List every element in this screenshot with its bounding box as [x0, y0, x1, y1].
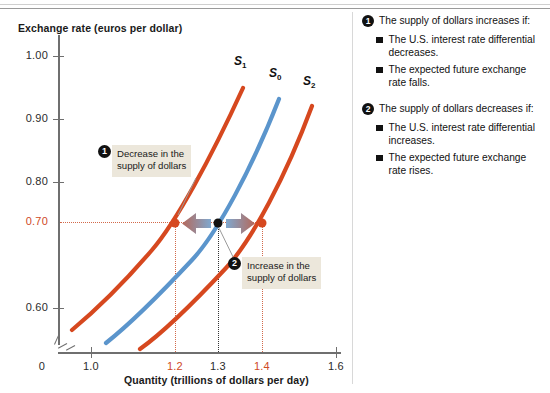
curve-label-s2: S2	[303, 74, 315, 90]
note-2-bullet-2-text: The expected future exchange rate rises.	[389, 151, 547, 177]
square-bullet-icon	[376, 125, 383, 132]
equilibrium-point-s1	[171, 219, 180, 228]
equilibrium-point-s0	[214, 219, 223, 228]
callout-1-badge: 1	[98, 145, 111, 158]
callout-1-line1: Decrease in the	[117, 148, 186, 160]
curve-label-s1: S1	[234, 54, 246, 70]
figure-supply-of-dollars: Exchange rate (euros per dollar) Quantit…	[0, 0, 550, 393]
chart-area: Exchange rate (euros per dollar) Quantit…	[0, 10, 352, 393]
arrow-decrease-supply	[182, 213, 211, 234]
callout-2-box: Increase in the supply of dollars	[242, 257, 321, 289]
notes-panel: 1 The supply of dollars increases if: Th…	[362, 14, 546, 190]
square-bullet-icon	[376, 155, 383, 162]
note-2-bullets: The U.S. interest rate differential incr…	[362, 121, 546, 177]
note-block-1: 1 The supply of dollars increases if: Th…	[362, 14, 546, 89]
callout-1-line2: supply of dollars	[117, 160, 186, 172]
note-1-bullet-1-text: The U.S. interest rate differential decr…	[389, 33, 547, 59]
panel-divider	[352, 12, 353, 384]
note-1-bullets: The U.S. interest rate differential decr…	[362, 33, 546, 89]
top-hairline-upper	[0, 4, 550, 5]
note-block-2: 2 The supply of dollars decreases if: Th…	[362, 102, 546, 177]
note-1-bullet-2-text: The expected future exchange rate falls.	[389, 63, 547, 89]
top-hairline-lower	[0, 8, 550, 9]
callout-1-leader	[178, 178, 196, 215]
curve-label-s2-sub: 2	[311, 81, 315, 90]
square-bullet-icon	[376, 67, 383, 74]
curve-label-s1-sub: 1	[242, 61, 246, 70]
note-2-heading: The supply of dollars decreases if:	[379, 102, 534, 115]
callout-2-line2: supply of dollars	[247, 272, 316, 284]
note-1-heading-row: 1 The supply of dollars increases if:	[362, 14, 546, 27]
curve-label-s2-base: S	[303, 74, 311, 88]
curve-label-s1-base: S	[234, 54, 242, 68]
callout-2-line1: Increase in the	[247, 260, 316, 272]
note-1-bullet-1: The U.S. interest rate differential decr…	[376, 33, 546, 59]
note-1-bullet-2: The expected future exchange rate falls.	[376, 63, 546, 89]
note-2-number: 2	[362, 103, 374, 115]
square-bullet-icon	[376, 37, 383, 44]
note-2-bullet-1: The U.S. interest rate differential incr…	[376, 121, 546, 147]
note-2-bullet-2: The expected future exchange rate rises.	[376, 151, 546, 177]
curve-label-s0-base: S	[269, 66, 277, 80]
equilibrium-point-s2	[258, 219, 267, 228]
curves-and-arrows-layer	[0, 10, 352, 393]
curve-label-s0-sub: 0	[277, 73, 281, 82]
note-2-heading-row: 2 The supply of dollars decreases if:	[362, 102, 546, 115]
curve-label-s0: S0	[269, 66, 281, 82]
note-2-bullet-1-text: The U.S. interest rate differential incr…	[389, 121, 547, 147]
callout-2-badge: 2	[228, 257, 241, 270]
callout-1-box: Decrease in the supply of dollars	[112, 145, 191, 177]
note-1-number: 1	[362, 15, 374, 27]
note-1-heading: The supply of dollars increases if:	[379, 14, 530, 27]
